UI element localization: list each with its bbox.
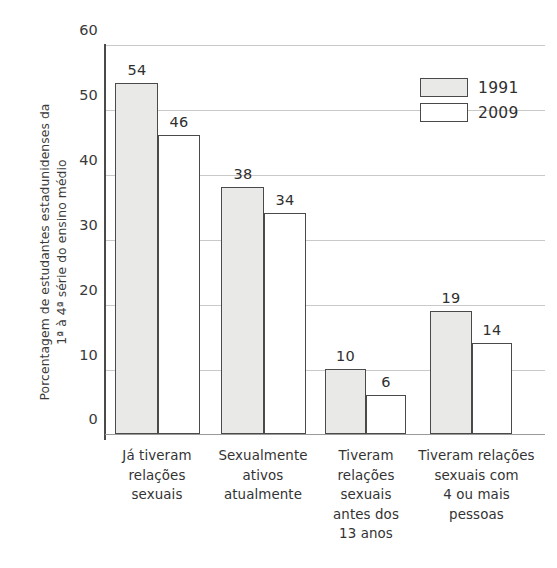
x-category-label-3-line-2: 4 ou mais bbox=[409, 485, 544, 505]
x-category-label-1-line-2: atualmente bbox=[211, 485, 315, 505]
bar-1991-group-1 bbox=[221, 187, 264, 434]
y-tick-label-30: 30 bbox=[56, 217, 98, 233]
bar-value-1991-group-1: 38 bbox=[222, 166, 264, 182]
y-axis-title-line1: Porcentagem de estudantes estadunidenses… bbox=[37, 104, 54, 401]
y-tick-label-60: 60 bbox=[56, 22, 98, 38]
bar-2009-group-0 bbox=[158, 135, 200, 434]
x-category-label-2-line-3: antes dos bbox=[322, 505, 410, 525]
bar-value-2009-group-0: 46 bbox=[158, 114, 200, 130]
legend-label-2009: 2009 bbox=[478, 104, 519, 122]
bar-value-2009-group-2: 6 bbox=[366, 374, 406, 390]
x-category-label-1: Sexualmente ativos atualmente bbox=[211, 446, 315, 505]
x-axis-line bbox=[105, 434, 545, 435]
x-category-label-2-line-1: relações bbox=[322, 466, 410, 486]
x-category-label-1-line-0: Sexualmente bbox=[211, 446, 315, 466]
bar-1991-group-3 bbox=[430, 311, 472, 434]
bar-value-2009-group-1: 34 bbox=[264, 192, 306, 208]
x-category-label-0-line-1: relações bbox=[107, 466, 207, 486]
x-category-label-3-line-1: sexuais com bbox=[409, 466, 544, 486]
x-category-label-3: Tiveram relações sexuais com 4 ou mais p… bbox=[409, 446, 544, 524]
bar-2009-group-3 bbox=[472, 343, 512, 434]
legend-item-1991: 1991 bbox=[420, 78, 519, 97]
y-axis-title: Porcentagem de estudantes estadunidenses… bbox=[34, 52, 74, 452]
x-category-label-0: Já tiveram relações sexuais bbox=[107, 446, 207, 505]
bar-value-1991-group-0: 54 bbox=[116, 62, 158, 78]
bar-2009-group-2 bbox=[366, 395, 406, 434]
x-category-label-3-line-0: Tiveram relações bbox=[409, 446, 544, 466]
y-tick-label-20: 20 bbox=[56, 282, 98, 298]
x-category-label-1-line-1: ativos bbox=[211, 466, 315, 486]
bar-value-1991-group-3: 19 bbox=[430, 290, 472, 306]
y-axis-line bbox=[104, 44, 106, 440]
bar-1991-group-0 bbox=[115, 83, 158, 434]
bar-value-2009-group-3: 14 bbox=[472, 322, 512, 338]
gridline-60 bbox=[105, 45, 545, 46]
bar-chart: Porcentagem de estudantes estadunidenses… bbox=[0, 0, 557, 568]
y-tick-label-40: 40 bbox=[56, 152, 98, 168]
bar-2009-group-1 bbox=[264, 213, 306, 434]
bar-1991-group-2 bbox=[325, 369, 366, 434]
legend-swatch-2009-icon bbox=[420, 103, 468, 122]
legend-swatch-1991-icon bbox=[420, 78, 468, 97]
bar-value-1991-group-2: 10 bbox=[325, 348, 366, 364]
y-tick-label-0: 0 bbox=[56, 411, 98, 427]
legend-item-2009: 2009 bbox=[420, 103, 519, 122]
x-category-label-2-line-2: sexuais bbox=[322, 485, 410, 505]
chart-legend: 1991 2009 bbox=[420, 78, 519, 128]
x-category-label-0-line-0: Já tiveram bbox=[107, 446, 207, 466]
y-tick-label-10: 10 bbox=[56, 347, 98, 363]
y-tick-label-50: 50 bbox=[56, 87, 98, 103]
x-category-label-2: Tiveram relações sexuais antes dos 13 an… bbox=[322, 446, 410, 544]
x-category-label-2-line-4: 13 anos bbox=[322, 524, 410, 544]
x-category-label-3-line-3: pessoas bbox=[409, 505, 544, 525]
y-axis-title-line2: 1ª à 4ª série do ensino médio bbox=[54, 159, 71, 344]
x-category-label-0-line-2: sexuais bbox=[107, 485, 207, 505]
x-category-label-2-line-0: Tiveram bbox=[322, 446, 410, 466]
legend-label-1991: 1991 bbox=[478, 79, 519, 97]
